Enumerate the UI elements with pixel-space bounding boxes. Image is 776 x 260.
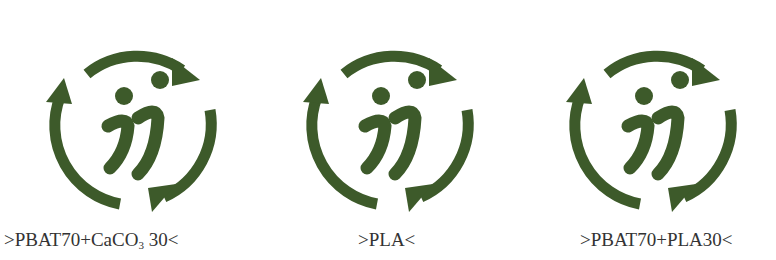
recycle-logo-pbat-pla (552, 22, 752, 222)
label-prefix: >PBAT70+CaCO (4, 229, 138, 250)
logo-label-pla: >PLA< (358, 229, 415, 251)
label-suffix: 30< (144, 229, 178, 250)
recycle-jj-logo-icon (552, 22, 752, 222)
recycle-jj-logo-icon (289, 22, 489, 222)
logo-label-pbat-pla: >PBAT70+PLA30< (580, 229, 733, 251)
label-text: >PLA< (358, 229, 415, 250)
logo-label-pbat-caco3: >PBAT70+CaCO3 30< (4, 229, 178, 251)
recycle-logo-pla (289, 22, 489, 222)
label-text: >PBAT70+PLA30< (580, 229, 733, 250)
recycle-jj-logo-icon (32, 22, 232, 222)
recycle-logo-pbat-caco3 (32, 22, 232, 222)
